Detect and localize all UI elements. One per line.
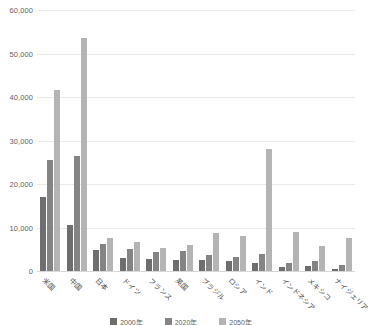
legend-swatch — [219, 318, 226, 325]
bar-group — [223, 10, 250, 271]
bar — [199, 260, 205, 271]
bar — [153, 252, 159, 271]
y-axis-tick-label: 0 — [29, 267, 33, 276]
legend-swatch — [165, 318, 172, 325]
bar-group — [276, 10, 303, 271]
bar — [146, 259, 152, 271]
bar — [180, 251, 186, 271]
bar — [40, 197, 46, 271]
bar — [93, 250, 99, 271]
bar-group — [329, 10, 356, 271]
bar — [187, 245, 193, 271]
bar-group — [302, 10, 329, 271]
bar — [233, 257, 239, 271]
y-axis-tick-label: 60,000 — [9, 6, 33, 15]
chart-legend: 2000年2020年2050年 — [0, 318, 362, 325]
bar — [293, 232, 299, 271]
x-axis-tick-label: ドイツ — [121, 275, 143, 297]
x-axis-tick-label: インド — [253, 275, 275, 297]
bar-group — [37, 10, 64, 271]
bar — [346, 238, 352, 271]
x-axis-tick: ロシア — [223, 271, 250, 325]
legend-item: 2020年 — [165, 318, 198, 325]
x-axis-tick: 中国 — [64, 271, 91, 325]
x-axis-tick: ブラジル — [196, 271, 223, 325]
legend-label: 2000年 — [120, 318, 143, 325]
legend-swatch — [110, 318, 117, 325]
x-axis-tick-label: ロシア — [227, 275, 249, 297]
bar — [120, 258, 126, 271]
y-axis: 60,00050,00040,00030,00020,00010,0000 — [0, 10, 33, 271]
x-axis-tick-label: 米国 — [41, 275, 58, 292]
x-axis-tick: 米国 — [37, 271, 64, 325]
y-axis-tick-label: 40,000 — [9, 93, 33, 102]
x-axis-tick-label: ナイジェリア — [333, 275, 370, 313]
bar-group — [170, 10, 197, 271]
bar — [74, 156, 80, 271]
legend-item: 2050年 — [219, 318, 252, 325]
bar — [319, 246, 325, 271]
y-axis-tick-label: 30,000 — [9, 136, 33, 145]
bar — [259, 254, 265, 271]
bar — [100, 244, 106, 271]
plot-area — [37, 10, 355, 271]
bar — [312, 261, 318, 271]
bar — [240, 236, 246, 271]
x-axis-tick: メキシコ — [302, 271, 329, 325]
x-axis-tick-label: 英国 — [174, 275, 191, 292]
bars-layer — [37, 10, 355, 271]
bar-group — [249, 10, 276, 271]
bar — [107, 238, 113, 271]
bar — [47, 160, 53, 271]
x-axis-tick: インド — [249, 271, 276, 325]
bar — [226, 261, 232, 271]
y-axis-tick-label: 50,000 — [9, 49, 33, 58]
bar — [81, 38, 87, 271]
bar — [206, 255, 212, 271]
bar-group — [64, 10, 91, 271]
bar — [173, 260, 179, 271]
x-axis-tick-label: 中国 — [68, 275, 85, 292]
bar — [160, 248, 166, 271]
bar-group — [143, 10, 170, 271]
y-axis-tick-label: 10,000 — [9, 223, 33, 232]
bar — [67, 225, 73, 271]
bar — [252, 263, 258, 271]
bar-group — [117, 10, 144, 271]
x-axis-tick: 日本 — [90, 271, 117, 325]
legend-item: 2000年 — [110, 318, 143, 325]
x-axis-tick: 英国 — [170, 271, 197, 325]
x-axis-tick: ドイツ — [117, 271, 144, 325]
x-axis-tick-label: 日本 — [94, 275, 111, 292]
x-axis-tick: インドネシア — [276, 271, 303, 325]
bar — [213, 233, 219, 271]
x-axis-tick: ナイジェリア — [329, 271, 356, 325]
y-axis-tick-label: 20,000 — [9, 180, 33, 189]
bar-group — [90, 10, 117, 271]
bar — [54, 90, 60, 271]
x-axis-tick: フランス — [143, 271, 170, 325]
x-axis: 米国中国日本ドイツフランス英国ブラジルロシアインドインドネシアメキシコナイジェリ… — [37, 271, 355, 325]
bar — [134, 242, 140, 271]
bar — [127, 249, 133, 271]
legend-label: 2050年 — [229, 318, 252, 325]
bar — [266, 149, 272, 271]
bar — [286, 263, 292, 271]
legend-label: 2020年 — [175, 318, 198, 325]
bar-group — [196, 10, 223, 271]
